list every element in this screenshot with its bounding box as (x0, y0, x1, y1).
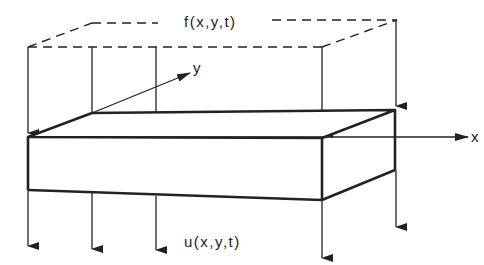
response-label: u(x,y,t) (184, 233, 241, 250)
plate-diagram: f(x,y,t) u(x,y,t) x y (0, 0, 484, 265)
plate-box (28, 110, 395, 200)
x-axis-label: x (471, 128, 480, 145)
load-label: f(x,y,t) (184, 13, 237, 30)
y-axis-label: y (193, 59, 202, 76)
y-axis-arrow (92, 73, 190, 113)
diagram-svg: f(x,y,t) u(x,y,t) x y (0, 0, 484, 265)
